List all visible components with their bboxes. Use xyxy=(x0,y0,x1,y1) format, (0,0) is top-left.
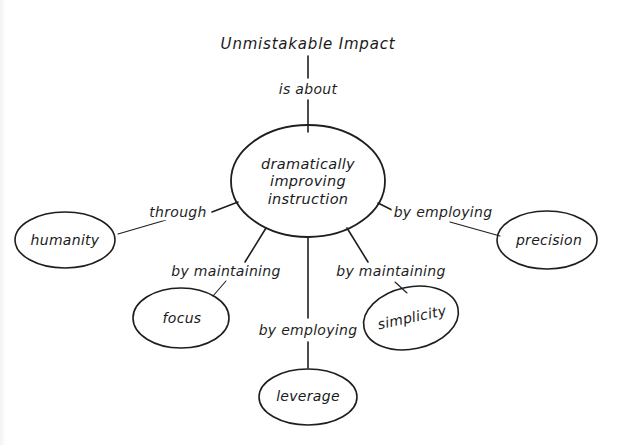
node-precision-label: precision xyxy=(516,232,582,250)
edge-precision-lower xyxy=(450,222,500,236)
link-label-by-employing-leverage: by employing xyxy=(257,323,360,338)
edge-center-simplicity xyxy=(347,228,368,262)
node-leverage-label: leverage xyxy=(276,388,340,406)
edge-focus-lower xyxy=(213,281,226,296)
node-humanity-label: humanity xyxy=(31,232,100,250)
center-line-1: dramatically xyxy=(261,156,355,173)
concept-map-canvas xyxy=(0,0,633,445)
link-label-by-maintaining-simplicity: by maintaining xyxy=(334,264,447,279)
edge-center-precision xyxy=(378,203,392,210)
link-label-by-employing-precision: by employing xyxy=(392,205,495,220)
root-node-label: Unmistakable Impact xyxy=(221,35,396,54)
center-node-label: dramatically improving instruction xyxy=(261,156,355,208)
center-line-3: instruction xyxy=(261,191,355,208)
link-label-through: through xyxy=(147,205,208,220)
edge-center-focus xyxy=(245,228,266,262)
center-line-2: improving xyxy=(261,173,355,190)
node-focus-label: focus xyxy=(163,310,202,328)
link-label-by-maintaining-focus: by maintaining xyxy=(169,264,282,279)
edge-through-humanity xyxy=(118,220,166,234)
link-label-is-about: is about xyxy=(277,82,339,97)
edge-center-through xyxy=(212,202,238,212)
